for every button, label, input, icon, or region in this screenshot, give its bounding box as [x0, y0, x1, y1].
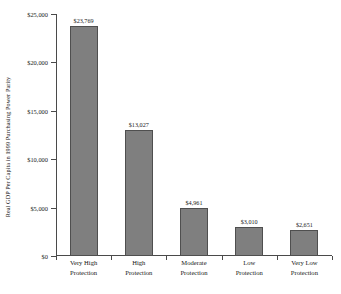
bar	[290, 230, 318, 256]
plot-area: $0$5,000$10,000$15,000$20,000$25,000 $23…	[56, 14, 332, 256]
category-label-line: Moderate	[165, 258, 223, 268]
category-label-line: Protection	[110, 268, 168, 278]
category-label: LowProtection	[220, 258, 278, 277]
bar-value-label: $13,027	[129, 121, 149, 128]
bar-chart: Real GDP Per Capita in 1999 Purchasing P…	[0, 0, 341, 294]
category-label-line: High	[110, 258, 168, 268]
bar-value-label: $3,010	[241, 218, 258, 225]
bar	[180, 208, 208, 256]
y-tick-label: $20,000	[27, 59, 48, 66]
bar-group: $23,769	[56, 14, 111, 256]
y-tick-label: $10,000	[27, 156, 48, 163]
x-axis-category-labels: Very HighProtectionHighProtectionModerat…	[56, 258, 332, 290]
category-label-line: Protection	[275, 268, 333, 278]
bar-group: $2,651	[277, 14, 332, 256]
bar-group: $13,027	[111, 14, 166, 256]
bar-series: $23,769$13,027$4,961$3,010$2,651	[56, 14, 332, 256]
category-label-line: Protection	[220, 268, 278, 278]
category-label-line: Low	[220, 258, 278, 268]
category-label: ModerateProtection	[165, 258, 223, 277]
bar	[125, 130, 153, 256]
category-label: Very HighProtection	[55, 258, 113, 277]
category-label: Very LowProtection	[275, 258, 333, 277]
y-tick-label: $15,000	[27, 107, 48, 114]
y-axis-title: Real GDP Per Capita in 1999 Purchasing P…	[0, 0, 14, 294]
y-tick-label: $5,000	[30, 204, 48, 211]
category-label-line: Protection	[165, 268, 223, 278]
category-label: HighProtection	[110, 258, 168, 277]
y-tick-label: $25,000	[27, 11, 48, 18]
bar-group: $3,010	[222, 14, 277, 256]
category-label-line: Protection	[55, 268, 113, 278]
category-label-line: Very Low	[275, 258, 333, 268]
bar	[235, 227, 263, 256]
bar-value-label: $23,769	[74, 17, 94, 24]
bar-value-label: $2,651	[296, 221, 313, 228]
y-tick-label: $0	[42, 253, 48, 260]
bar-group: $4,961	[166, 14, 221, 256]
category-label-line: Very High	[55, 258, 113, 268]
bar	[70, 26, 98, 256]
bar-value-label: $4,961	[185, 199, 202, 206]
